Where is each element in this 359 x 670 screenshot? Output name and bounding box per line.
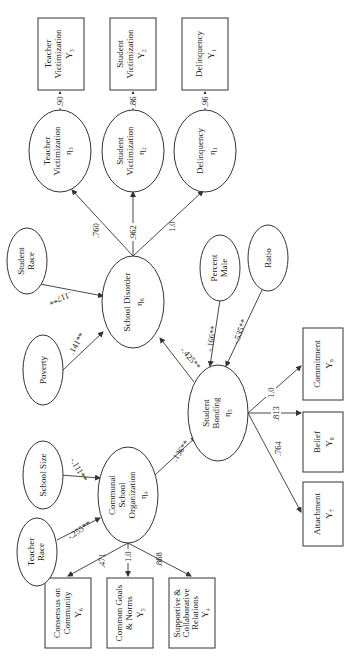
ellipse-label: Student [16, 247, 26, 275]
coef-eta6-eta2: .962 [128, 225, 138, 240]
ellipse-label: Male [219, 259, 229, 278]
coef-poverty-eta6: .141** [66, 331, 86, 356]
edge-eta6-eta3 [72, 190, 133, 256]
coef-eta4-y4: .868 [154, 552, 164, 567]
ellipse-label: Communal [107, 475, 117, 515]
ellipse-label: Student [201, 399, 211, 427]
ellipse-label: Victimization [125, 126, 135, 175]
box-commitment-y9: Commitment Y₉ [303, 328, 343, 400]
box-label: Consensus on [52, 588, 62, 638]
box-symbol: Y₇ [324, 509, 334, 519]
coef-eta6-eta1: 1.0 [167, 221, 177, 232]
box-symbol: Y₄ [200, 608, 210, 618]
ellipse-label: Organization [127, 471, 137, 518]
ellipse-label: Race [36, 543, 46, 561]
ellipse-label: Delinquency [195, 128, 205, 174]
box-attachment-y7: Attachment Y₇ [303, 482, 343, 546]
ellipse-school-disorder-eta6: School Disorder η₆ [102, 256, 164, 348]
box-symbol: Y₈ [324, 437, 334, 447]
ellipse-label: Ratio [263, 248, 273, 268]
box-consensus-on-community-y6: Consensus on Community Y₆ [45, 578, 91, 648]
ellipse-teacher-victimization-eta3: Teacher Victimization η₃ [29, 110, 91, 192]
coef-eta3-y3: .90 [55, 96, 65, 107]
ellipse-label: Student [115, 137, 125, 165]
box-label: Victimization [53, 29, 63, 78]
ellipse-label: Race [26, 252, 36, 270]
coef-student-race-eta6: .117** [48, 290, 73, 307]
ellipse-label: Bonding [211, 397, 221, 429]
box-symbol: Y₁ [206, 49, 216, 59]
observed-indicators: Teacher Victimization Y₃ Student Victimi… [38, 18, 343, 648]
box-label: Community [62, 591, 72, 635]
ellipse-student-victimization-eta2: Student Victimization η₂ [102, 110, 164, 192]
coef-eta5-y8: .813 [271, 406, 281, 421]
box-label: Teacher [43, 40, 53, 68]
box-label: Attachment [312, 493, 322, 535]
coef-school-size-eta4: -.111** [68, 456, 89, 483]
ellipse-symbol: η₁ [207, 147, 217, 155]
coef-percent-male-eta5: -.166** [204, 325, 218, 353]
ellipse-label: Teacher [42, 137, 52, 165]
ellipse-student-race: Student Race [7, 228, 47, 294]
ellipse-teacher-race: Teacher Race [17, 518, 57, 586]
box-label: & Norms [124, 596, 134, 630]
box-common-goals-norms-y5: Common Goals & Norms Y₅ [107, 578, 153, 648]
ellipse-label: Percent [209, 254, 219, 281]
coef-eta4-y6: .471 [97, 553, 107, 568]
ellipse-symbol: η₂ [136, 147, 146, 155]
box-symbol: Y₉ [324, 359, 334, 369]
ellipse-label: School Size [38, 454, 48, 497]
box-supportive-collaborative-relations-y4: Supportive & Collaborative Relations Y₄ [169, 578, 215, 648]
box-label: Relations [190, 596, 200, 630]
coef-eta5-y9: 1.0 [266, 387, 276, 398]
box-symbol: Y₅ [135, 608, 145, 618]
box-label: Common Goals [114, 584, 124, 641]
coef-eta4-eta5: .136** [169, 438, 191, 463]
box-belief-y8: Belief Y₈ [303, 412, 343, 472]
coef-eta5-y7: .764 [273, 440, 283, 456]
coef-eta6-eta3: .760 [91, 223, 101, 238]
ellipse-label: Victimization [52, 126, 62, 175]
coef-ratio-eta5: -.535** [230, 318, 248, 346]
coef-eta2-y2: .86 [128, 96, 138, 107]
box-symbol: Y₂ [136, 49, 146, 59]
ellipse-delinquency-eta1: Delinquency η₁ [174, 110, 236, 192]
box-label: Commitment [312, 340, 322, 388]
ellipse-label: Poverty [38, 356, 48, 384]
box-teacher-victimization-y3: Teacher Victimization Y₃ [38, 18, 84, 90]
ellipse-student-bonding-eta5: Student Bonding η₅ [188, 365, 248, 461]
box-symbol: Y₃ [64, 49, 74, 59]
ellipse-label: Teacher [26, 538, 36, 566]
coef-teacher-race-eta4: -.255** [65, 518, 92, 541]
ellipse-communal-school-organization-eta4: Communal School Organization η₄ [98, 447, 158, 543]
ellipse-label: School Disorder [122, 273, 132, 332]
box-label: Student [115, 40, 125, 68]
ellipse-percent-male: Percent Male [200, 235, 240, 301]
box-label: Victimization [125, 29, 135, 78]
ellipse-symbol: η₄ [138, 491, 148, 499]
ellipse-ratio: Ratio [248, 225, 288, 291]
box-student-victimization-y2: Student Victimization Y₂ [110, 18, 156, 90]
ellipse-symbol: η₅ [222, 409, 232, 417]
ellipse-label: School [117, 482, 127, 508]
ellipse-symbol: η₆ [134, 298, 144, 306]
ellipse-school-size: School Size [23, 441, 63, 509]
ellipse-symbol: η₃ [63, 147, 73, 155]
box-symbol: Y₆ [73, 608, 83, 618]
ellipse-poverty: Poverty [23, 335, 63, 405]
box-delinquency-y1: Delinquency Y₁ [182, 18, 228, 90]
box-label: Belief [312, 431, 322, 453]
structural-equation-model-diagram: .90 .86 .96 .760 .962 1.0 .117** .141** … [0, 0, 359, 670]
box-label: Delinquency [194, 31, 204, 77]
coef-eta4-y5: 1.0 [123, 551, 133, 562]
coef-eta1-y1: .96 [200, 96, 210, 107]
edge-eta5-y7 [248, 413, 301, 512]
